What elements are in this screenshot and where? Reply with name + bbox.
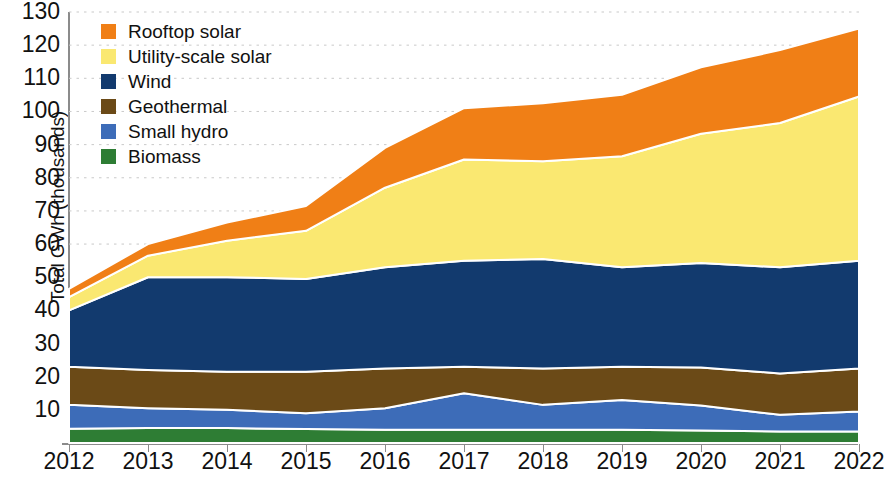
- x-axis-tick-label: 2021: [754, 450, 805, 473]
- legend-swatch-icon: [101, 24, 116, 39]
- y-axis-tick-label: 40: [14, 298, 60, 321]
- x-axis-tick-mark: [69, 444, 70, 452]
- legend-item-label: Small hydro: [128, 122, 228, 141]
- y-axis-tick-label: 110: [14, 66, 60, 89]
- legend-item[interactable]: Biomass: [101, 145, 272, 167]
- y-axis-tick-label: 130: [14, 0, 60, 23]
- legend-swatch-icon: [101, 99, 116, 114]
- x-axis-tick-label: 2013: [122, 450, 173, 473]
- legend-swatch-icon: [101, 124, 116, 139]
- y-axis-tick-label: 60: [14, 232, 60, 255]
- y-axis-tick-label: 30: [14, 332, 60, 355]
- legend-item-label: Wind: [128, 72, 171, 91]
- y-axis-tick-label: 70: [14, 199, 60, 222]
- x-axis-tick-mark: [464, 444, 465, 452]
- y-axis-tick-label: 50: [14, 265, 60, 288]
- y-axis-tick-label: 80: [14, 166, 60, 189]
- y-axis-tick-label: 20: [14, 365, 60, 388]
- y-axis-tick-label: 90: [14, 133, 60, 156]
- x-axis-tick-label: 2016: [359, 450, 410, 473]
- x-axis-tick-mark: [859, 444, 860, 452]
- legend-item[interactable]: Small hydro: [101, 120, 272, 142]
- legend-item-label: Utility-scale solar: [128, 47, 272, 66]
- y-axis-tick-label: 10: [14, 398, 60, 421]
- chart-legend: Rooftop solarUtility-scale solarWindGeot…: [101, 20, 272, 167]
- x-axis-tick-label: 2012: [43, 450, 94, 473]
- legend-swatch-icon: [101, 149, 116, 164]
- x-axis-tick-mark: [780, 444, 781, 452]
- y-axis-tick-labels: 102030405060708090100110120130: [8, 0, 60, 480]
- x-axis-tick-label: 2022: [833, 450, 884, 473]
- x-axis-tick-label: 2017: [438, 450, 489, 473]
- y-axis-tick-label: 120: [14, 33, 60, 56]
- y-axis-tick-label: 100: [14, 99, 60, 122]
- legend-swatch-icon: [101, 74, 116, 89]
- x-axis-tick-label: 2014: [201, 450, 252, 473]
- legend-item[interactable]: Rooftop solar: [101, 20, 272, 42]
- legend-item-label: Geothermal: [128, 97, 227, 116]
- x-axis-tick-mark: [148, 444, 149, 452]
- x-axis-tick-mark: [385, 444, 386, 452]
- legend-item-label: Rooftop solar: [128, 22, 241, 41]
- x-axis-tick-mark: [701, 444, 702, 452]
- x-axis-tick-label: 2018: [517, 450, 568, 473]
- legend-swatch-icon: [101, 49, 116, 64]
- x-axis-tick-mark: [227, 444, 228, 452]
- legend-item[interactable]: Utility-scale solar: [101, 45, 272, 67]
- x-axis-tick-mark: [306, 444, 307, 452]
- legend-item[interactable]: Wind: [101, 70, 272, 92]
- x-axis-tick-label: 2019: [596, 450, 647, 473]
- legend-item-label: Biomass: [128, 147, 201, 166]
- x-axis-tick-label: 2015: [280, 450, 331, 473]
- x-axis-tick-label: 2020: [675, 450, 726, 473]
- legend-item[interactable]: Geothermal: [101, 95, 272, 117]
- x-axis-tick-mark: [622, 444, 623, 452]
- x-axis-tick-mark: [543, 444, 544, 452]
